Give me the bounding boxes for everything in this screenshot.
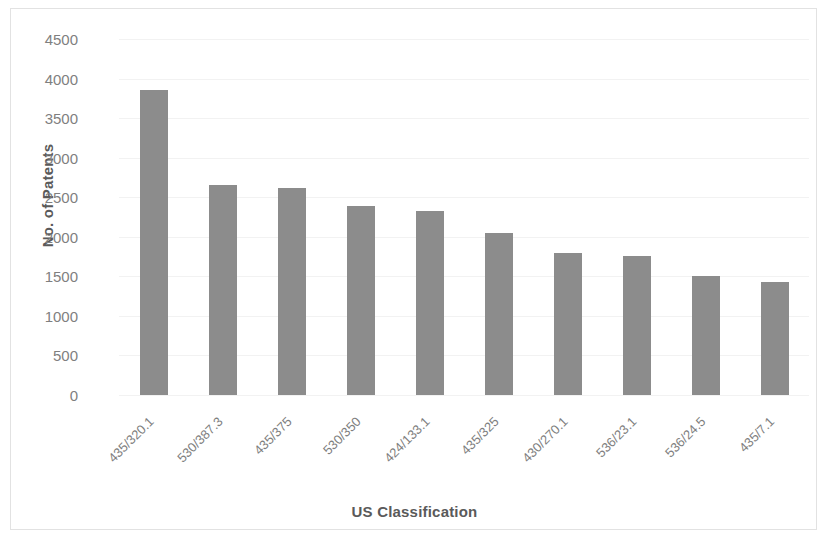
bar (278, 188, 306, 395)
bar (692, 276, 720, 395)
bar (623, 256, 651, 395)
bar (554, 253, 582, 395)
bar (347, 206, 375, 395)
bar-slot (326, 39, 395, 395)
y-axis-tick-label: 4000 (18, 70, 78, 87)
bar (761, 282, 789, 395)
y-axis-tick-label: 1000 (18, 307, 78, 324)
x-axis-tick-label: 435/375 (249, 410, 298, 459)
chart-container: No. of Patents 4500400035003000250020001… (10, 8, 817, 530)
x-axis-tick-label-slot: 435/7.1 (740, 403, 809, 493)
x-axis-tick-label: 435/7.1 (735, 410, 781, 456)
x-axis-tick-label-slot: 435/375 (257, 403, 326, 493)
bar (416, 211, 444, 395)
bar-slot (671, 39, 740, 395)
x-axis-tick-labels: 435/320.1530/387.3435/375530/350424/133.… (119, 403, 809, 493)
bar-slot (533, 39, 602, 395)
plot-area (119, 39, 809, 395)
bar (209, 185, 237, 395)
bar (485, 233, 513, 395)
gridline (119, 395, 809, 396)
y-axis-tick-label: 0 (18, 387, 78, 404)
bar (140, 90, 168, 395)
y-axis-tick-label: 2000 (18, 228, 78, 245)
y-axis-tick-label: 3500 (18, 110, 78, 127)
x-axis-tick-label: 435/320.1 (103, 410, 159, 466)
bar-slot (395, 39, 464, 395)
x-axis-title: US Classification (11, 503, 818, 520)
bar-slot (602, 39, 671, 395)
x-axis-tick-label-slot: 536/24.5 (671, 403, 740, 493)
x-axis-tick-label-slot: 424/133.1 (395, 403, 464, 493)
bar-slot (257, 39, 326, 395)
x-axis-tick-label-slot: 530/387.3 (188, 403, 257, 493)
y-axis-tick-label: 4500 (18, 31, 78, 48)
y-axis-tick-label: 3000 (18, 149, 78, 166)
y-axis-tick-label: 1500 (18, 268, 78, 285)
bar-slot (119, 39, 188, 395)
bar-slot (464, 39, 533, 395)
x-axis-tick-label: 435/325 (456, 410, 505, 459)
bar-slot (188, 39, 257, 395)
x-axis-tick-label: 530/350 (318, 410, 367, 459)
y-axis-tick-label: 2500 (18, 189, 78, 206)
y-axis-tick-label: 500 (18, 347, 78, 364)
bar-slot (740, 39, 809, 395)
